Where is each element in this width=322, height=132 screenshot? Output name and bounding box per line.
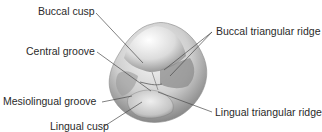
label-lingual-triangular-ridge: Lingual triangular ridge: [215, 106, 322, 118]
tooth-body: [109, 23, 207, 123]
label-lingual-cusp: Lingual cusp: [50, 120, 109, 132]
label-buccal-cusp: Buccal cusp: [38, 5, 95, 17]
label-central-groove: Central groove: [26, 45, 95, 57]
label-mesiolingual-groove: Mesiolingual groove: [3, 95, 96, 107]
label-buccal-triangular-ridge: Buccal triangular ridge: [216, 25, 320, 37]
